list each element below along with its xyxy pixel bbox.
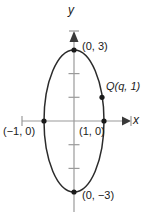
- x-axis-label: x: [133, 114, 139, 126]
- label-point-q-text: Q(q, 1): [106, 80, 140, 92]
- point-bottom-vertex: [71, 189, 76, 194]
- point-top-vertex: [71, 47, 76, 52]
- figure-background: [0, 0, 150, 215]
- point-right-vertex: [101, 118, 106, 123]
- point-q: [99, 95, 104, 100]
- label-point-q: Q(q, 1): [106, 81, 140, 92]
- label-top-vertex: (0, 3): [82, 41, 108, 52]
- ellipse-graph-figure: [0, 0, 150, 215]
- label-right-vertex: (1, 0): [79, 126, 105, 137]
- label-left-vertex: (−1, 0): [3, 126, 35, 137]
- y-axis-label: y: [68, 4, 74, 16]
- label-bottom-vertex: (0, −3): [82, 190, 114, 201]
- point-left-vertex: [41, 118, 46, 123]
